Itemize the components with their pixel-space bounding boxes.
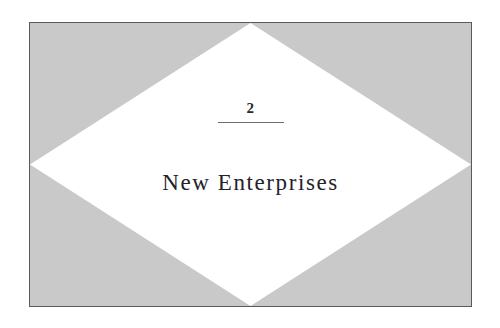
chapter-panel: 2 New Enterprises [29, 22, 472, 307]
chapter-opener-page: 2 New Enterprises [0, 0, 500, 328]
diamond-shape [30, 23, 471, 306]
